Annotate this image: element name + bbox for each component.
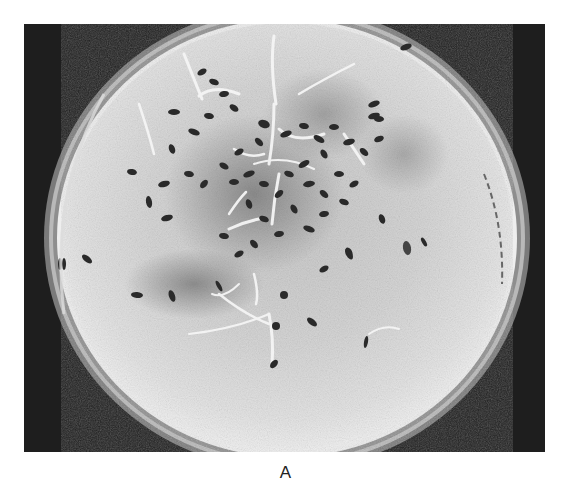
figure-caption: A <box>0 463 571 483</box>
petri-dish-photo <box>24 24 545 452</box>
petri-dish-illustration <box>24 24 545 452</box>
